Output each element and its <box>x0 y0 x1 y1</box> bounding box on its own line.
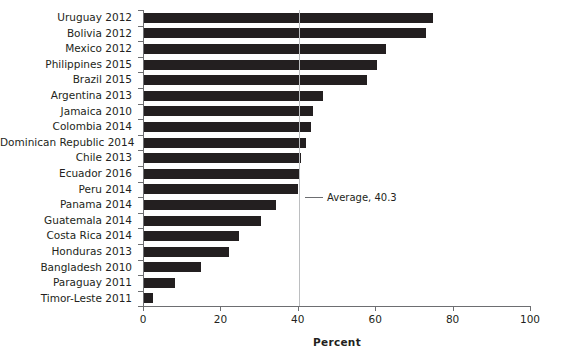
bar-series <box>144 10 433 306</box>
y-axis-label: Guatemala 2014 <box>0 213 138 229</box>
y-axis-tick <box>138 197 143 198</box>
bar <box>144 278 175 288</box>
y-axis-category-labels: Uruguay 2012 Bolivia 2012 Mexico 2012 Ph… <box>0 10 138 306</box>
y-axis-label: Chile 2013 <box>0 150 138 166</box>
y-axis-label: Panama 2014 <box>0 197 138 213</box>
y-axis-label: Uruguay 2012 <box>0 10 138 26</box>
bar-row <box>144 291 433 307</box>
bar-row <box>144 72 433 88</box>
bar-row <box>144 104 433 120</box>
bar <box>144 138 306 148</box>
bar-row <box>144 275 433 291</box>
bar-row <box>144 10 433 26</box>
x-axis-tick <box>453 306 454 311</box>
y-axis-label: Mexico 2012 <box>0 41 138 57</box>
bar <box>144 231 239 241</box>
y-axis-label: Bangladesh 2010 <box>0 260 138 276</box>
bar <box>144 293 153 303</box>
y-axis-tick <box>138 104 143 105</box>
y-axis-label: Timor-Leste 2011 <box>0 291 138 307</box>
average-annotation-label: Average, 40.3 <box>327 192 397 203</box>
x-axis-tick <box>220 306 221 311</box>
average-reference-line <box>299 10 301 306</box>
y-axis-label: Colombia 2014 <box>0 119 138 135</box>
bar-row <box>144 88 433 104</box>
x-axis-tick-label: 60 <box>369 313 382 325</box>
y-axis-tick <box>138 135 143 136</box>
bar <box>144 262 201 272</box>
y-axis-tick <box>138 119 143 120</box>
bar-row <box>144 260 433 276</box>
bar-row <box>144 57 433 73</box>
y-axis-label: Philippines 2015 <box>0 57 138 73</box>
y-axis-label: Paraguay 2011 <box>0 275 138 291</box>
x-axis-tick <box>530 306 531 311</box>
y-axis-tick <box>138 275 143 276</box>
bar <box>144 247 229 257</box>
bar <box>144 60 377 70</box>
y-axis-label: Brazil 2015 <box>0 72 138 88</box>
x-axis-tick <box>298 306 299 311</box>
y-axis-tick <box>138 72 143 73</box>
bar <box>144 106 313 116</box>
y-axis-tick <box>138 244 143 245</box>
y-axis-label: Argentina 2013 <box>0 88 138 104</box>
y-axis-label: Costa Rica 2014 <box>0 228 138 244</box>
bar <box>144 216 261 226</box>
bar-row <box>144 213 433 229</box>
bar <box>144 153 301 163</box>
bar <box>144 44 386 54</box>
average-annotation: Average, 40.3 <box>305 192 397 203</box>
y-axis-label: Bolivia 2012 <box>0 26 138 42</box>
y-axis-tick <box>138 166 143 167</box>
y-axis-tick <box>138 41 143 42</box>
x-axis-line <box>143 306 531 307</box>
y-axis-tick <box>138 26 143 27</box>
x-axis-title: Percent <box>143 336 531 348</box>
bar-row <box>144 26 433 42</box>
bar-row <box>144 41 433 57</box>
x-axis-tick <box>143 306 144 311</box>
y-axis-tick <box>138 150 143 151</box>
bar <box>144 184 298 194</box>
y-axis-tick <box>138 228 143 229</box>
y-axis-label: Honduras 2013 <box>0 244 138 260</box>
bar <box>144 13 433 23</box>
bar-chart: Uruguay 2012 Bolivia 2012 Mexico 2012 Ph… <box>0 0 561 362</box>
bar <box>144 28 426 38</box>
bar <box>144 91 323 101</box>
bar-row <box>144 228 433 244</box>
bar-row <box>144 119 433 135</box>
y-axis-tick <box>138 260 143 261</box>
bar-row <box>144 166 433 182</box>
x-axis-tick-label: 20 <box>214 313 227 325</box>
y-axis-tick <box>138 291 143 292</box>
bar <box>144 75 367 85</box>
bar <box>144 169 300 179</box>
x-axis-tick-label: 100 <box>520 313 540 325</box>
x-axis-tick-label: 0 <box>140 313 147 325</box>
y-axis-label: Dominican Republic 2014 <box>0 135 138 151</box>
y-axis-tick <box>138 10 143 11</box>
bar-row <box>144 135 433 151</box>
y-axis-label: Ecuador 2016 <box>0 166 138 182</box>
y-axis-tick <box>138 88 143 89</box>
bar <box>144 122 311 132</box>
y-axis-label: Jamaica 2010 <box>0 104 138 120</box>
y-axis-label: Peru 2014 <box>0 182 138 198</box>
y-axis-tick <box>138 182 143 183</box>
x-axis-tick-label: 80 <box>446 313 459 325</box>
leader-line-icon <box>305 197 323 198</box>
y-axis-tick <box>138 57 143 58</box>
bar-row <box>144 244 433 260</box>
bar <box>144 200 276 210</box>
x-axis-tick <box>375 306 376 311</box>
bar-row <box>144 150 433 166</box>
y-axis-tick <box>138 213 143 214</box>
x-axis-tick-label: 40 <box>291 313 304 325</box>
